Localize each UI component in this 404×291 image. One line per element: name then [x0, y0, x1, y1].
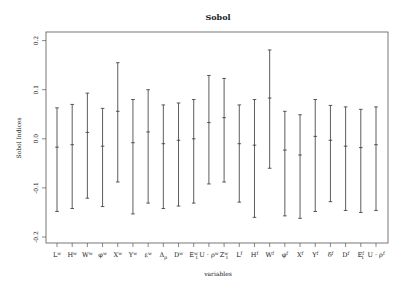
sobol-chart: Sobol -0.2-0.10.00.10.2 LwHwWwφwXwYwεwΔρ…: [0, 0, 404, 291]
x-tick-label: Yw: [128, 251, 137, 260]
x-axis-label: variables: [203, 270, 232, 277]
x-tick-label: Wf: [265, 251, 274, 260]
y-axis: -0.2-0.10.00.10.2: [32, 36, 46, 243]
error-bar: [146, 90, 150, 203]
y-tick-label: 0.1: [32, 85, 39, 95]
x-tick-label: δf: [328, 251, 334, 260]
x-tick-label: Df: [342, 251, 349, 260]
error-bar: [177, 103, 181, 206]
error-bar: [329, 105, 333, 201]
error-bar: [131, 100, 135, 214]
x-tick-label: U · ρf: [367, 251, 385, 260]
error-bar: [86, 93, 90, 198]
x-tick-label: Lw: [53, 251, 61, 260]
error-bar: [192, 100, 196, 204]
x-tick-label: Ef1: [357, 251, 364, 260]
error-bar: [162, 105, 166, 209]
y-tick-label: 0.0: [32, 134, 39, 144]
plot-frame: [46, 32, 388, 243]
error-bar: [237, 105, 241, 202]
error-bar: [207, 75, 211, 184]
x-tick-label: Xf: [297, 251, 304, 260]
error-bar: [298, 115, 302, 219]
x-tick-label: Hf: [251, 251, 259, 260]
error-bar: [283, 111, 287, 216]
x-tick-label: Dw: [174, 251, 183, 260]
y-axis-label: Sobol Indices: [15, 118, 22, 159]
x-tick-label: Yf: [311, 251, 318, 260]
error-bar: [70, 104, 74, 208]
y-tick-label: -0.1: [32, 182, 39, 194]
x-tick-label: φw: [98, 251, 107, 260]
error-bar: [344, 107, 348, 211]
x-tick-label: Ew1: [189, 251, 198, 260]
x-axis: LwHwWwφwXwYwεwΔρDwEw1U · ρwZw1LfHfWfφfXf…: [53, 243, 385, 261]
x-tick-label: Zw1: [220, 251, 229, 260]
x-tick-label: Ww: [82, 251, 93, 260]
error-bar: [374, 107, 378, 211]
x-tick-label: Hw: [67, 251, 77, 260]
error-bar: [55, 108, 59, 212]
chart-title: Sobol: [205, 12, 230, 22]
x-tick-label: U · ρw: [199, 251, 219, 260]
error-bar: [313, 100, 317, 212]
error-bar: [101, 108, 105, 206]
x-tick-label: εw: [145, 251, 152, 260]
error-bar: [222, 78, 226, 182]
error-bar: [268, 50, 272, 168]
x-tick-label: Lf: [236, 251, 242, 260]
error-bars: [55, 50, 378, 218]
error-bar: [253, 100, 257, 218]
y-tick-label: 0.2: [32, 36, 39, 46]
x-tick-label: Δρ: [160, 251, 168, 261]
x-tick-label: Xw: [114, 251, 123, 260]
x-tick-label: φf: [282, 251, 289, 260]
y-tick-label: -0.2: [32, 231, 39, 243]
error-bar: [359, 109, 363, 212]
error-bar: [116, 63, 120, 182]
